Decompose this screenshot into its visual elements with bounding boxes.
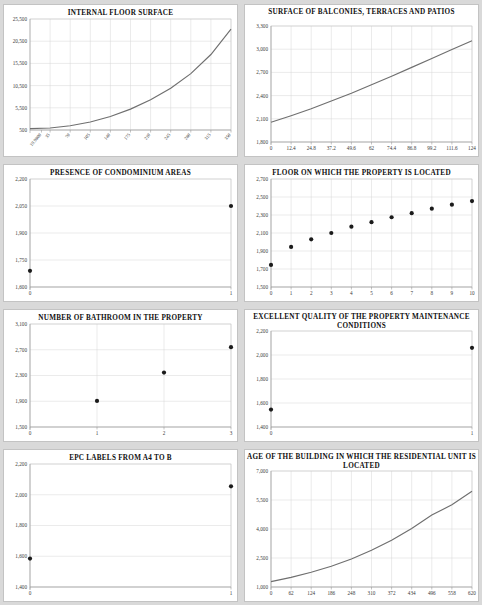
chart-plot-area: 1,6001,7501,9002,0502,20001: [4, 165, 237, 301]
chart-plot-area: 1,8002,1002,4002,7003,0003,300012.424.83…: [245, 5, 478, 156]
svg-text:99.2: 99.2: [427, 145, 436, 151]
svg-text:1: 1: [471, 430, 474, 436]
chart-panel: EPC LABELS FROM A4 TO B 1,4001,6001,8002…: [3, 449, 238, 602]
svg-text:10: 10: [469, 290, 475, 296]
svg-text:1,500: 1,500: [15, 424, 27, 430]
svg-text:1,700: 1,700: [256, 266, 268, 272]
svg-text:2,700: 2,700: [15, 347, 27, 353]
svg-text:1,800: 1,800: [15, 522, 27, 528]
svg-text:2,500: 2,500: [256, 555, 268, 561]
svg-text:0: 0: [29, 290, 32, 296]
svg-text:105: 105: [83, 132, 92, 141]
chart-cell-surface-balconies: SURFACE OF BALCONIES, TERRACES AND PATIO…: [241, 0, 482, 160]
svg-text:3,300: 3,300: [256, 23, 268, 29]
chart-panel: SURFACE OF BALCONIES, TERRACES AND PATIO…: [244, 4, 479, 157]
svg-text:2,300: 2,300: [15, 372, 27, 378]
svg-text:62: 62: [369, 145, 375, 151]
chart-plot-area: 5005,50010,50015,50020,50025,50019.98003…: [4, 5, 237, 156]
svg-text:3: 3: [230, 430, 233, 436]
svg-text:1,900: 1,900: [15, 398, 27, 404]
svg-text:0: 0: [270, 290, 273, 296]
svg-text:1: 1: [290, 290, 293, 296]
svg-text:620: 620: [468, 590, 476, 596]
svg-text:1,600: 1,600: [256, 400, 268, 406]
svg-text:372: 372: [388, 590, 396, 596]
svg-text:558: 558: [448, 590, 456, 596]
svg-text:2,000: 2,000: [15, 492, 27, 498]
svg-text:1: 1: [230, 590, 233, 596]
svg-text:6: 6: [390, 290, 393, 296]
svg-text:0: 0: [29, 430, 32, 436]
svg-text:19.9800: 19.9800: [29, 132, 43, 147]
chart-cell-internal-floor-surface: INTERNAL FLOOR SURFACE 5005,50010,50015,…: [0, 0, 241, 160]
svg-text:0: 0: [29, 590, 32, 596]
svg-text:2: 2: [310, 290, 313, 296]
svg-text:7,000: 7,000: [256, 468, 268, 474]
svg-text:2,400: 2,400: [256, 93, 268, 99]
svg-text:2,000: 2,000: [256, 352, 268, 358]
svg-text:124: 124: [468, 145, 476, 151]
svg-text:3,100: 3,100: [15, 321, 27, 327]
svg-text:0: 0: [270, 430, 273, 436]
chart-plot-area: 1,4001,6001,8002,0002,20001: [4, 450, 237, 601]
svg-text:35: 35: [44, 132, 51, 139]
svg-text:5,500: 5,500: [15, 105, 27, 111]
chart-plot-area: 1,5001,7001,9002,1002,3002,5002,70001234…: [245, 165, 478, 301]
chart-plot-area: 1,5001,9002,3002,7003,1000123: [4, 310, 237, 441]
svg-text:70: 70: [64, 132, 71, 139]
svg-text:12.4: 12.4: [287, 145, 296, 151]
svg-text:2: 2: [163, 430, 166, 436]
chart-panel: AGE OF THE BUILDING IN WHICH THE RESIDEN…: [244, 449, 479, 602]
chart-panel: NUMBER OF BATHROOM IN THE PROPERTY 1,500…: [3, 309, 238, 442]
svg-text:1,000: 1,000: [256, 584, 268, 590]
svg-text:2,100: 2,100: [256, 230, 268, 236]
svg-text:24.8: 24.8: [307, 145, 316, 151]
svg-text:62: 62: [289, 590, 295, 596]
chart-plot-area: 1,4001,6001,8002,0002,20001: [245, 310, 478, 441]
chart-cell-presence-condominium: PRESENCE OF CONDOMINIUM AREAS 1,6001,750…: [0, 160, 241, 305]
svg-text:310: 310: [368, 590, 376, 596]
svg-text:4,000: 4,000: [256, 526, 268, 532]
svg-text:434: 434: [408, 590, 416, 596]
svg-text:186: 186: [327, 590, 335, 596]
svg-text:111.6: 111.6: [446, 145, 458, 151]
chart-cell-excellent-quality: EXCELLENT QUALITY OF THE PROPERTY MAINTE…: [241, 305, 482, 445]
svg-text:4: 4: [350, 290, 353, 296]
svg-text:1,900: 1,900: [15, 230, 27, 236]
svg-text:0: 0: [270, 590, 273, 596]
svg-text:5,500: 5,500: [256, 497, 268, 503]
svg-text:210: 210: [143, 132, 152, 141]
svg-text:3,000: 3,000: [256, 46, 268, 52]
svg-text:248: 248: [348, 590, 356, 596]
svg-text:2,700: 2,700: [256, 69, 268, 75]
svg-text:7: 7: [410, 290, 413, 296]
chart-cell-age-building: AGE OF THE BUILDING IN WHICH THE RESIDEN…: [241, 445, 482, 605]
svg-text:1,500: 1,500: [256, 284, 268, 290]
svg-text:1: 1: [96, 430, 99, 436]
svg-text:2,200: 2,200: [15, 176, 27, 182]
svg-text:1: 1: [230, 290, 233, 296]
svg-text:315: 315: [203, 132, 212, 141]
svg-text:2,100: 2,100: [256, 116, 268, 122]
svg-text:8: 8: [431, 290, 434, 296]
svg-text:1,400: 1,400: [256, 424, 268, 430]
svg-text:3: 3: [330, 290, 333, 296]
svg-text:2,200: 2,200: [256, 328, 268, 334]
svg-text:124: 124: [307, 590, 315, 596]
chart-cell-number-bathroom: NUMBER OF BATHROOM IN THE PROPERTY 1,500…: [0, 305, 241, 445]
chart-panel: INTERNAL FLOOR SURFACE 5005,50010,50015,…: [3, 4, 238, 157]
svg-text:0: 0: [270, 145, 273, 151]
svg-text:245: 245: [163, 132, 172, 141]
svg-text:500: 500: [19, 127, 27, 133]
svg-text:1,900: 1,900: [256, 248, 268, 254]
svg-text:25,500: 25,500: [13, 16, 28, 22]
chart-panel: EXCELLENT QUALITY OF THE PROPERTY MAINTE…: [244, 309, 479, 442]
svg-text:1,800: 1,800: [256, 139, 268, 145]
svg-text:37.2: 37.2: [327, 145, 336, 151]
svg-text:175: 175: [123, 132, 132, 141]
svg-text:280: 280: [183, 132, 192, 141]
svg-text:1,800: 1,800: [256, 376, 268, 382]
svg-text:2,200: 2,200: [15, 461, 27, 467]
svg-text:496: 496: [428, 590, 436, 596]
svg-text:140: 140: [103, 132, 112, 141]
